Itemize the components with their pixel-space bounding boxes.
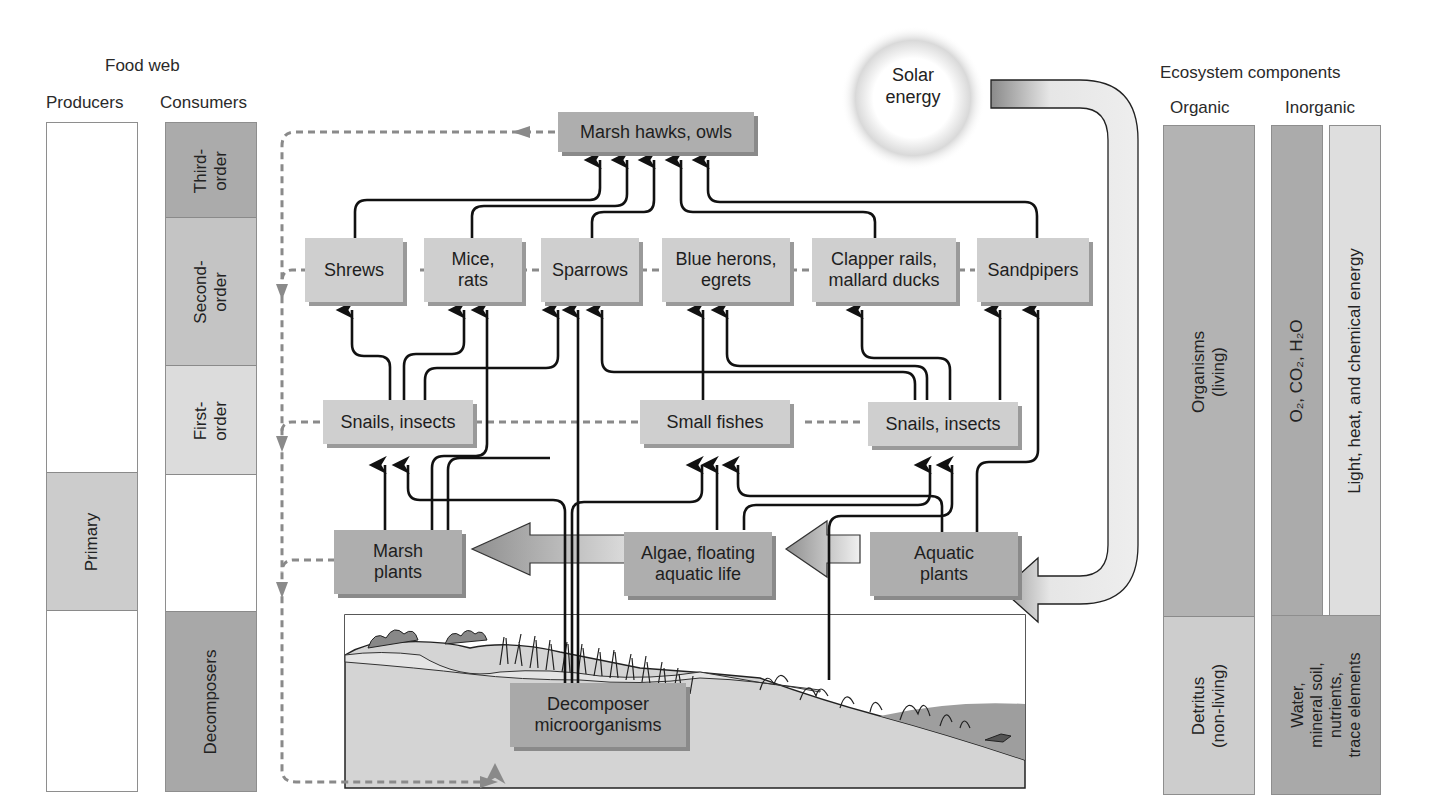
node-label: Mice, rats [451,249,494,291]
node-sparrows: Sparrows [541,238,639,302]
node-marsh-plants: Marsh plants [334,530,462,594]
node-label: Marsh hawks, owls [580,122,732,143]
node-decomposer-microorganisms: Decomposer microorganisms [510,683,686,747]
node-label: Shrews [324,260,384,281]
node-marsh-hawks-owls: Marsh hawks, owls [558,112,754,152]
node-aquatic-plants: Aquatic plants [870,532,1018,596]
node-small-fishes: Small fishes [640,400,790,444]
node-label: Sparrows [552,260,628,281]
node-blue-herons-egrets: Blue herons, egrets [662,238,790,302]
node-label: Algae, floating aquatic life [641,543,755,585]
node-shrews: Shrews [305,238,403,302]
node-sandpipers: Sandpipers [977,238,1089,302]
node-label: Snails, insects [885,414,1000,435]
node-label: Marsh plants [373,541,423,583]
node-label: Sandpipers [987,260,1078,281]
solar-energy-label: Solar energy [868,64,958,108]
node-snails-insects-right: Snails, insects [868,402,1018,446]
node-label: Small fishes [666,412,763,433]
node-snails-insects-left: Snails, insects [323,400,473,444]
node-label: Aquatic plants [914,543,974,585]
node-label: Decomposer microorganisms [534,694,661,736]
node-clapper-rails-mallard-ducks: Clapper rails, mallard ducks [812,238,956,302]
node-label: Snails, insects [340,412,455,433]
node-mice-rats: Mice, rats [424,238,522,302]
node-label: Clapper rails, mallard ducks [828,249,939,291]
node-algae-floating-aquatic-life: Algae, floating aquatic life [624,532,772,596]
node-label: Blue herons, egrets [675,249,776,291]
flow-arrow-aquatic-to-algae [786,521,860,577]
